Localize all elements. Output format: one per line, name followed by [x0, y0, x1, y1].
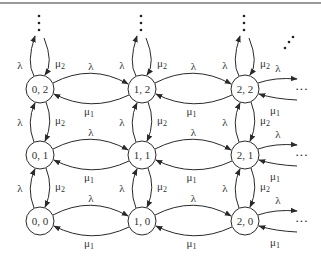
ellipsis-diagonal-icon [292, 36, 295, 39]
state-node-1-1: 1, 1 [128, 141, 156, 169]
label-mu2: μ2 [260, 114, 270, 128]
arrow-mu1-left [156, 160, 232, 170]
arrow-lambda-right-out [258, 79, 297, 84]
label-lambda: λ [222, 182, 228, 194]
arrow-lambda-up [235, 103, 240, 142]
label-mu2: μ2 [55, 57, 65, 71]
arrow-lambda-right [155, 139, 231, 150]
ellipsis-vertical-icon [140, 29, 143, 32]
arrow-mu2-down [147, 102, 152, 141]
arrow-lambda-up-out [235, 36, 240, 76]
state-label: 2, 2 [237, 83, 254, 95]
arrow-mu2-down-in [146, 38, 151, 75]
label-lambda: λ [275, 62, 281, 74]
arrow-mu2-down-in [44, 38, 49, 75]
ellipsis-vertical-icon [243, 22, 246, 25]
state-label: 1, 0 [134, 215, 151, 227]
arrow-mu1-left [54, 94, 129, 104]
arrow-lambda-right-out [258, 145, 297, 150]
arrow-mu2-down [45, 102, 50, 141]
ellipsis-vertical-icon [243, 15, 246, 18]
label-lambda: λ [119, 182, 125, 194]
state-node-2-0: 2, 0 [231, 207, 259, 235]
label-lambda: λ [88, 60, 94, 72]
arrow-lambda-right-out [258, 211, 297, 216]
label-lambda: λ [275, 194, 281, 206]
ellipsis-horizontal-icon: ··· [295, 213, 308, 228]
arrow-lambda-right [53, 73, 128, 84]
arrow-lambda-up [132, 103, 137, 142]
arrow-lambda-up-out [132, 36, 137, 76]
ellipsis-horizontal-icon: ··· [295, 81, 308, 96]
label-lambda: λ [275, 128, 281, 140]
arrow-lambda-up [132, 169, 137, 208]
arrow-mu2-down [250, 102, 255, 141]
arrow-mu2-down [147, 168, 152, 207]
label-mu1: μ1 [187, 171, 197, 185]
label-mu1: μ1 [84, 237, 94, 251]
label-mu1: μ1 [270, 104, 280, 118]
label-lambda: λ [17, 59, 23, 71]
arrow-mu1-left [54, 226, 129, 236]
arrow-mu2-down-in [249, 38, 254, 75]
ellipsis-vertical-icon [38, 29, 41, 32]
arrow-lambda-up [30, 103, 35, 142]
arrow-mu1-left [156, 226, 232, 236]
label-mu2: μ2 [157, 114, 167, 128]
arrow-lambda-up [30, 169, 35, 208]
label-lambda: λ [222, 116, 228, 128]
state-label: 2, 1 [237, 149, 254, 161]
state-node-1-2: 1, 2 [128, 75, 156, 103]
ellipsis-vertical-icon [140, 15, 143, 18]
arrow-lambda-right [53, 139, 128, 150]
state-label: 1, 1 [134, 149, 151, 161]
label-mu2: μ2 [55, 180, 65, 194]
arrow-mu1-left-in [259, 226, 297, 232]
arrow-lambda-right [155, 205, 231, 216]
label-mu1: μ1 [270, 236, 280, 250]
label-lambda: λ [191, 192, 197, 204]
label-mu1: μ1 [270, 170, 280, 184]
arrow-lambda-up [235, 169, 240, 208]
state-node-2-1: 2, 1 [231, 141, 259, 169]
label-mu2: μ2 [260, 180, 270, 194]
label-lambda: λ [222, 59, 228, 71]
state-label: 0, 0 [32, 215, 49, 227]
edge-labels: λμ1λμ1λμ1···λμ1λμ1λμ1···λμ1λμ1λμ1···λμ2λ… [17, 15, 308, 251]
label-mu1: μ1 [84, 105, 94, 119]
arrow-lambda-right [155, 73, 231, 84]
label-mu2: μ2 [157, 180, 167, 194]
label-lambda: λ [17, 116, 23, 128]
arrow-mu1-left-in [259, 94, 297, 100]
label-mu2: μ2 [157, 57, 167, 71]
state-label: 0, 2 [32, 83, 49, 95]
label-lambda: λ [17, 182, 23, 194]
ellipsis-diagonal-icon [288, 41, 291, 44]
label-lambda: λ [119, 59, 125, 71]
state-node-0-2: 0, 2 [26, 75, 54, 103]
ellipsis-vertical-icon [38, 22, 41, 25]
ellipsis-vertical-icon [243, 29, 246, 32]
arrow-mu1-left [54, 160, 129, 170]
ellipsis-vertical-icon [38, 15, 41, 18]
state-node-1-0: 1, 0 [128, 207, 156, 235]
label-lambda: λ [88, 126, 94, 138]
arrow-mu1-left [156, 94, 232, 104]
label-mu1: μ1 [187, 105, 197, 119]
label-lambda: λ [191, 126, 197, 138]
label-lambda: λ [191, 60, 197, 72]
arrow-lambda-up-out [30, 36, 35, 76]
arrow-mu2-down [250, 168, 255, 207]
ellipsis-diagonal-icon [284, 47, 287, 50]
ellipsis-horizontal-icon: ··· [295, 147, 308, 162]
state-label: 1, 2 [134, 83, 151, 95]
markov-chain-diagram: λμ1λμ1λμ1···λμ1λμ1λμ1···λμ1λμ1λμ1···λμ2λ… [0, 0, 321, 263]
label-lambda: λ [119, 116, 125, 128]
arrow-mu2-down [45, 168, 50, 207]
label-mu2: μ2 [260, 57, 270, 71]
label-lambda: λ [88, 192, 94, 204]
arrow-lambda-right [53, 205, 128, 216]
arrow-mu1-left-in [259, 160, 297, 166]
label-mu1: μ1 [84, 171, 94, 185]
state-label: 2, 0 [237, 215, 254, 227]
